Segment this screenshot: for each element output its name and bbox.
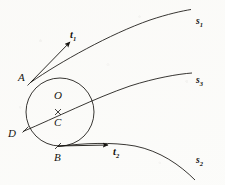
point-label-a: A bbox=[18, 72, 25, 83]
vector-label-t2-subscript: 2 bbox=[116, 152, 119, 159]
vector-label-t1: t1 bbox=[70, 30, 76, 43]
vector-label-t2: t2 bbox=[113, 147, 119, 160]
curve-s1 bbox=[31, 10, 192, 83]
vector-label-t1-subscript: 1 bbox=[73, 35, 76, 42]
point-label-c: C bbox=[54, 117, 61, 128]
curve-s3 bbox=[23, 73, 192, 132]
vector-t1-arrow bbox=[31, 42, 71, 83]
curve-label-s1-subscript: 1 bbox=[200, 21, 203, 28]
curve-label-s3-subscript: 3 bbox=[200, 80, 203, 87]
curve-s2 bbox=[58, 143, 196, 180]
point-label-d: D bbox=[8, 128, 16, 139]
curve-label-s1: s1 bbox=[196, 17, 203, 28]
geometric-figure: A D B C O s1 s3 s2 t1 t2 bbox=[0, 0, 225, 185]
curve-label-s2: s2 bbox=[196, 156, 203, 167]
point-label-b: B bbox=[54, 152, 61, 163]
point-label-o: O bbox=[54, 90, 62, 101]
curve-label-s2-subscript: 2 bbox=[200, 160, 203, 167]
curve-label-s3: s3 bbox=[196, 76, 203, 87]
point-mark-a bbox=[28, 80, 34, 86]
